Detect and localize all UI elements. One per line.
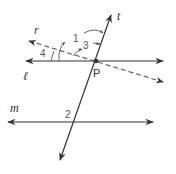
angle-2-label: 2 — [65, 109, 71, 120]
angle-3-arrow — [93, 43, 100, 44]
angle-3-label: 3 — [83, 40, 89, 51]
label-r: r — [34, 23, 39, 37]
line-t — [60, 15, 111, 160]
angle-3-arc — [73, 49, 82, 56]
label-t: t — [117, 9, 121, 23]
angle-4-arc — [51, 51, 54, 61]
angle-1-label: 1 — [73, 33, 79, 44]
point-p-dot — [94, 59, 99, 64]
angle-4-label: 4 — [40, 48, 46, 59]
label-m: m — [10, 101, 19, 115]
label-l: ℓ — [23, 69, 28, 83]
angle-1-arrow — [84, 30, 103, 33]
parallel-lines-diagram: t r ℓ m P 1 3 4 2 — [0, 0, 176, 174]
label-p: P — [93, 67, 100, 79]
